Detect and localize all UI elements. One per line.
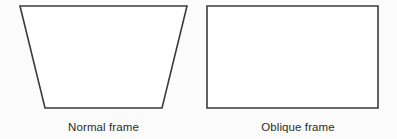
frame-comparison-figure: Normal frame Oblique frame xyxy=(0,0,397,139)
normal-frame-caption: Normal frame xyxy=(0,120,207,134)
oblique-frame-rectangle xyxy=(207,6,378,108)
oblique-frame-caption: Oblique frame xyxy=(199,120,397,134)
frame-shapes-canvas xyxy=(0,0,397,139)
normal-frame-trapezoid xyxy=(20,6,187,108)
